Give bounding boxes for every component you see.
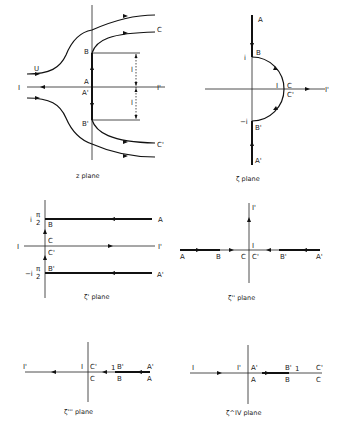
- label-C: C: [48, 237, 53, 245]
- label-B-prime: B': [48, 265, 55, 273]
- label-I: I: [17, 243, 19, 251]
- label-A-prime: A': [316, 253, 323, 261]
- arrow-up-icon: [90, 65, 94, 70]
- arrow-icon: [265, 371, 270, 375]
- label-one: 1: [111, 364, 115, 372]
- label-C-prime: C': [48, 249, 55, 257]
- label-I-prime: I': [157, 84, 161, 92]
- zeta3-plane-panel: I' I C' C 1 B' B A' A ζ''' plane: [23, 342, 154, 416]
- label-A-prime: A': [82, 89, 89, 97]
- arrow-icon: [135, 54, 138, 58]
- zeta1-plane-caption: ζ' plane: [84, 293, 109, 301]
- label-A-prime: A': [157, 271, 164, 279]
- label-C: C: [316, 376, 321, 384]
- arrow-icon: [305, 87, 310, 91]
- label-I-prime: I': [237, 364, 241, 372]
- label-A-prime: A': [251, 364, 258, 372]
- arrow-icon: [137, 370, 142, 374]
- label-I-prime: I': [252, 204, 256, 212]
- arrow-down-icon: [250, 43, 254, 48]
- arrow-icon: [266, 248, 271, 252]
- label-B: B: [256, 49, 261, 57]
- arrow-icon: [110, 217, 115, 221]
- label-A: A: [158, 216, 163, 224]
- label-B: B: [84, 48, 89, 56]
- label-two: 2: [36, 219, 40, 227]
- zeta4-plane-panel: I I' A' A B' B 1 C' C ζ^IV plane: [190, 345, 323, 417]
- label-C-prime: C': [316, 364, 323, 372]
- zeta-plane-panel: A B i I C C' I' −i B' A' ζ plane: [205, 15, 329, 183]
- label-I: I: [276, 82, 278, 90]
- zeta2-plane-panel: I' I A B C C' B' A' ζ'' plane: [180, 203, 323, 302]
- label-B-prime: B': [285, 364, 292, 372]
- label-B: B: [48, 221, 53, 229]
- arrow-icon: [108, 244, 113, 248]
- label-minus-i: −i: [25, 270, 33, 278]
- arrow-up-icon: [247, 217, 251, 222]
- label-A: A: [147, 375, 152, 383]
- arrow-icon: [40, 85, 45, 89]
- arrow-icon: [135, 82, 138, 86]
- label-C: C: [287, 82, 292, 90]
- label-minus-i: −i: [240, 118, 248, 126]
- arrow-up-icon: [43, 229, 47, 234]
- label-A: A: [251, 376, 256, 384]
- label-i: i: [30, 216, 32, 224]
- arrow-icon: [229, 248, 234, 252]
- label-two: 2: [36, 273, 40, 281]
- label-I-prime: I': [23, 363, 27, 371]
- z-plane-caption: z plane: [76, 172, 100, 180]
- label-C-prime: C': [157, 141, 164, 149]
- label-I: I: [18, 84, 20, 92]
- label-I: I: [252, 242, 254, 250]
- label-I-prime: I': [325, 86, 329, 94]
- arrow-icon: [110, 271, 115, 275]
- z-upper-inner-streamline: [92, 32, 155, 53]
- arrow-icon: [51, 370, 56, 374]
- label-I-prime: I': [158, 243, 162, 251]
- arrow-icon: [135, 88, 138, 92]
- label-B-prime: B': [280, 253, 287, 261]
- z-lower-inner-streamline: [92, 120, 155, 143]
- label-A: A: [180, 253, 185, 261]
- arrow-down-icon: [90, 103, 94, 108]
- label-A: A: [84, 78, 89, 86]
- zeta2-plane-caption: ζ'' plane: [228, 294, 255, 302]
- label-C-prime: C': [287, 91, 294, 99]
- label-I: I: [81, 363, 83, 371]
- label-A-prime: A': [147, 363, 154, 371]
- label-C-prime: C': [252, 253, 259, 261]
- label-U: U: [34, 65, 39, 73]
- label-l-top: l: [131, 66, 133, 74]
- label-pi: π: [36, 211, 41, 219]
- label-B: B: [216, 253, 221, 261]
- zeta1-plane-panel: i π 2 B C I C' I' B' −i π 2 A A' ζ' plan…: [17, 200, 164, 301]
- label-B-prime: B': [117, 363, 124, 371]
- arrow-icon: [135, 115, 138, 119]
- label-l-bottom: l: [131, 99, 133, 107]
- label-B: B: [285, 376, 290, 384]
- label-B-prime: B': [82, 120, 89, 128]
- label-I: I: [192, 364, 194, 372]
- zeta3-plane-caption: ζ''' plane: [64, 408, 93, 416]
- arrow-icon: [35, 96, 40, 100]
- label-A-prime: A': [255, 157, 262, 165]
- label-C: C: [157, 26, 162, 34]
- label-C: C: [90, 375, 95, 383]
- arrow-icon: [102, 370, 107, 374]
- z-plane-panel: U I I' A A' B B' C C' l l z plane: [18, 5, 165, 180]
- label-pi: π: [36, 265, 41, 273]
- arrow-up-icon: [43, 255, 47, 260]
- conformal-mapping-diagram: U I I' A A' B B' C C' l l z plane A B i …: [0, 0, 344, 429]
- arrow-icon: [196, 248, 201, 252]
- arrow-icon: [302, 248, 307, 252]
- label-i: i: [244, 54, 246, 62]
- arrow-icon: [123, 14, 128, 18]
- arrow-icon: [217, 371, 222, 375]
- label-C-prime: C': [90, 363, 97, 371]
- zeta-plane-caption: ζ plane: [236, 175, 260, 183]
- label-one: 1: [295, 365, 299, 373]
- label-B-prime: B': [255, 124, 262, 132]
- label-A: A: [258, 16, 263, 24]
- arrow-up-icon: [250, 141, 254, 146]
